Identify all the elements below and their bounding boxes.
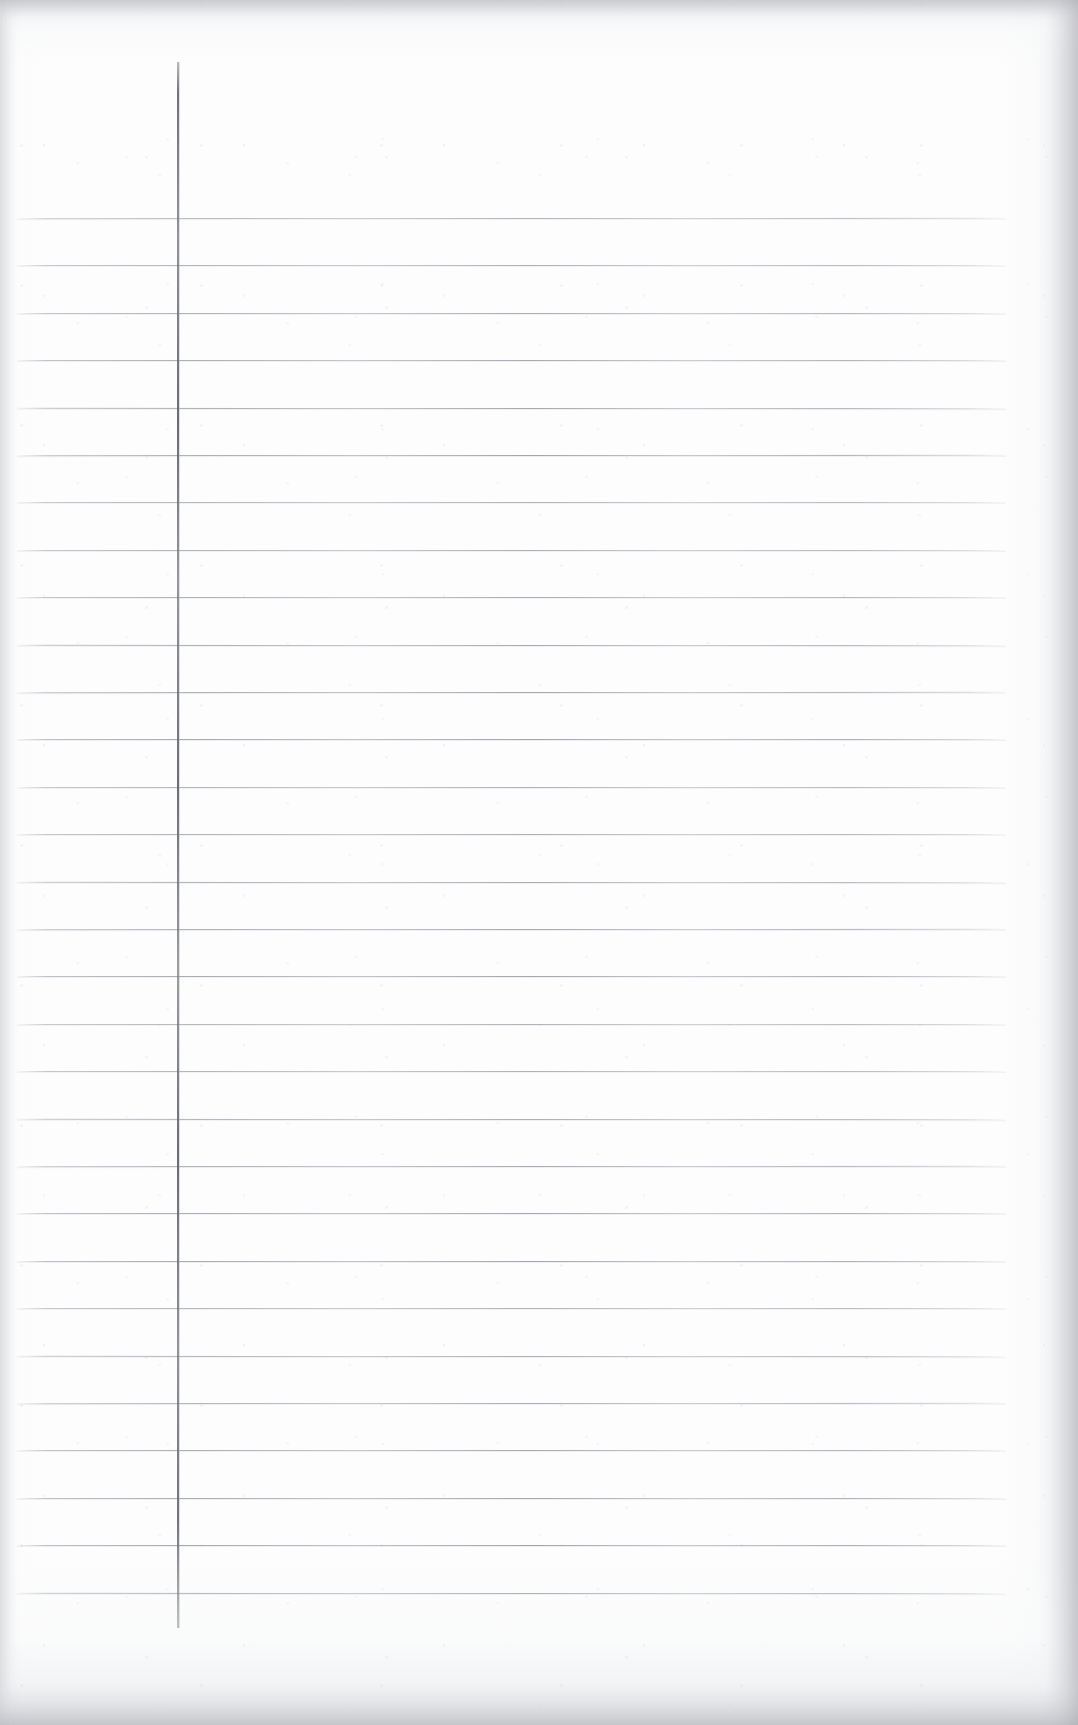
ruled-line xyxy=(17,1498,1006,1499)
ruled-line xyxy=(17,1403,1006,1404)
horizontal-rule-layer xyxy=(0,0,1078,1725)
ruled-line xyxy=(17,218,1006,219)
ruled-line xyxy=(17,739,1006,740)
ruled-line xyxy=(17,882,1006,883)
ruled-line xyxy=(17,265,1006,266)
ruled-line xyxy=(17,976,1006,977)
ruled-line xyxy=(17,692,1006,693)
ruled-line xyxy=(17,1166,1006,1167)
ruled-line xyxy=(17,834,1006,835)
ruled-line xyxy=(17,1213,1006,1214)
vertical-margin-line xyxy=(177,62,179,1628)
ruled-line xyxy=(17,1071,1006,1072)
ruled-line xyxy=(17,645,1006,646)
ruled-line xyxy=(17,1261,1006,1262)
ruled-line xyxy=(17,1308,1006,1309)
ruled-line xyxy=(17,360,1006,361)
ruled-line xyxy=(17,1545,1006,1546)
ruled-line xyxy=(17,313,1006,314)
ruled-line xyxy=(17,787,1006,788)
ruled-line xyxy=(17,1024,1006,1025)
ruled-line xyxy=(17,550,1006,551)
ruled-line xyxy=(17,1593,1006,1594)
ruled-line xyxy=(17,1450,1006,1451)
ruled-line xyxy=(17,1119,1006,1120)
ruled-line xyxy=(17,455,1006,456)
ruled-line xyxy=(17,502,1006,503)
scanned-notebook-page: Blank Ruled Notebook Page xyxy=(0,0,1078,1725)
ruled-line xyxy=(17,1356,1006,1357)
ruled-line xyxy=(17,597,1006,598)
ruled-line xyxy=(17,929,1006,930)
ruled-line xyxy=(17,408,1006,409)
